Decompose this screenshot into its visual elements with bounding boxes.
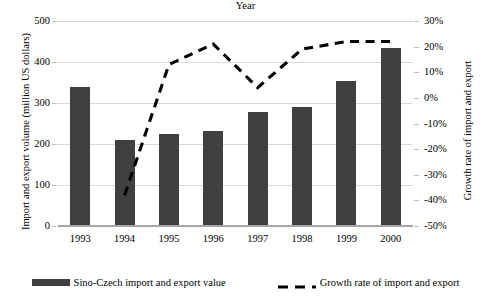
y-axis-right-tick-label: -20%: [424, 144, 464, 155]
y-axis-left-tickmark: [52, 62, 57, 63]
y-axis-right-tick-label: -50%: [424, 221, 464, 232]
y-axis-right-tickmark: [414, 72, 419, 73]
x-axis-line: [58, 225, 413, 226]
y-axis-left-tick-label: 500: [14, 16, 50, 27]
y-axis-left-tickmark: [52, 21, 57, 22]
y-axis-right-tickmark: [414, 149, 419, 150]
x-axis-tick-label: 1994: [102, 234, 148, 245]
y-axis-right-tickmark: [414, 98, 419, 99]
x-axis-tick-label: 1995: [146, 234, 192, 245]
plot-area: [58, 21, 413, 226]
legend-item-bar: Sino-Czech import and export value: [32, 277, 226, 288]
y-axis-left-title: Import and export volume (million US dol…: [20, 12, 31, 252]
y-axis-right-tickmark: [414, 124, 419, 125]
x-axis-tick-label: 1998: [279, 234, 325, 245]
y-axis-right-tickmark: [414, 175, 419, 176]
y-axis-right-tick-label: -10%: [424, 119, 464, 130]
y-axis-left-tickmark: [52, 226, 57, 227]
y-axis-right-tick-label: 20%: [424, 42, 464, 53]
y-axis-left-tickmark: [52, 103, 57, 104]
y-axis-right-tick-label: 10%: [424, 67, 464, 78]
growth-rate-polyline: [125, 42, 391, 196]
y-axis-right-tick-label: -30%: [424, 170, 464, 181]
x-axis-tick-label: 1997: [235, 234, 281, 245]
legend-item-line: Growth rate of import and export: [278, 277, 460, 288]
y-axis-left-tickmark: [52, 185, 57, 186]
dashed-line-swatch-icon: [278, 278, 316, 288]
y-axis-left-tickmark: [52, 144, 57, 145]
y-axis-right-tick-label: 0%: [424, 93, 464, 104]
y-axis-left-tick-label: 0: [14, 221, 50, 232]
y-axis-right-tickmark: [414, 226, 419, 227]
legend-label-bar: Sino-Czech import and export value: [74, 277, 226, 288]
y-axis-left-tick-label: 200: [14, 139, 50, 150]
y-axis-right-tickmark: [414, 21, 419, 22]
x-axis-tick-label: 2000: [368, 234, 414, 245]
y-axis-left-tick-label: 300: [14, 98, 50, 109]
x-axis-title: Year: [0, 0, 491, 11]
y-axis-right-tick-label: 30%: [424, 16, 464, 27]
line-series: [58, 21, 413, 226]
y-axis-right-tickmark: [414, 200, 419, 201]
y-axis-left-tick-label: 400: [14, 57, 50, 68]
x-axis-tick-label: 1996: [190, 234, 236, 245]
bar-swatch-icon: [32, 279, 70, 286]
gridline: [58, 226, 413, 227]
y-axis-right-tick-label: -40%: [424, 195, 464, 206]
x-axis-tick-label: 1999: [323, 234, 369, 245]
y-axis-left-tick-label: 100: [14, 180, 50, 191]
y-axis-right-tickmark: [414, 47, 419, 48]
combo-chart: Import and export volume (million US dol…: [0, 0, 491, 303]
x-axis-tick-label: 1993: [57, 234, 103, 245]
chart-legend: Sino-Czech import and export value Growt…: [0, 277, 491, 288]
legend-label-line: Growth rate of import and export: [320, 277, 460, 288]
